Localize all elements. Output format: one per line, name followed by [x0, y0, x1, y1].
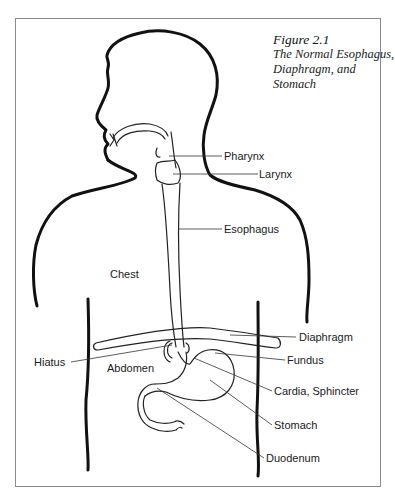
figure-title-line-2: Diaphragm, and — [273, 62, 394, 77]
esophagus-left-wall — [162, 184, 176, 347]
label-hiatus: Hiatus — [34, 356, 65, 368]
figure-title-line-3: Stomach — [273, 77, 394, 92]
label-fundus: Fundus — [287, 354, 324, 366]
leader-duodenum — [157, 388, 264, 458]
stomach — [145, 350, 234, 401]
figure-diagram: Figure 2.1 The Normal Esophagus, Diaphra… — [0, 0, 395, 504]
label-abdomen: Abdomen — [107, 362, 154, 374]
right-torso-outline — [257, 302, 259, 476]
label-esophagus: Esophagus — [224, 223, 279, 235]
palate — [113, 124, 168, 143]
diaphragm — [94, 328, 281, 350]
label-cardia-sphincter: Cardia, Sphincter — [274, 385, 359, 397]
pharynx-wall — [171, 132, 176, 168]
label-duodenum: Duodenum — [266, 452, 320, 464]
leader-hiatus — [71, 345, 172, 362]
larynx — [156, 160, 181, 184]
hiatus-ring — [164, 341, 189, 362]
label-stomach: Stomach — [274, 419, 317, 431]
esophagus-right-wall — [179, 183, 185, 347]
left-torso-outline — [86, 299, 89, 470]
label-diaphragm: Diaphragm — [299, 331, 353, 343]
leader-cardia — [194, 358, 272, 391]
head-outline — [33, 160, 135, 306]
label-chest: Chest — [110, 268, 139, 280]
label-pharynx: Pharynx — [224, 150, 264, 162]
label-larynx: Larynx — [259, 168, 292, 180]
figure-number: Figure 2.1 — [273, 32, 394, 47]
teeth — [110, 134, 117, 146]
epiglottis — [156, 148, 160, 157]
figure-title-line-1: The Normal Esophagus, — [273, 47, 394, 62]
figure-caption: Figure 2.1 The Normal Esophagus, Diaphra… — [273, 32, 394, 92]
leader-fundus — [215, 353, 285, 360]
